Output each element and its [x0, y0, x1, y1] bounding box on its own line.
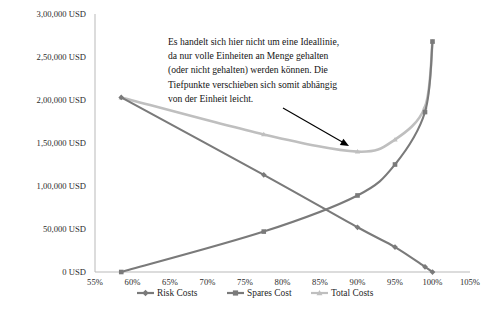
series-risk-costs — [118, 95, 435, 275]
series-line — [121, 97, 432, 272]
y-axis-tick-labels: 0 USD50,000 USD1,00,000 USD1,50,000 USD2… — [37, 9, 86, 277]
data-point-marker — [423, 110, 428, 115]
annotation-text-line: von der Einheit leicht. — [168, 93, 253, 104]
legend-marker — [233, 290, 238, 295]
x-tick-label: 95% — [387, 277, 403, 287]
legend-label: Risk Costs — [157, 288, 198, 298]
data-point-marker — [355, 193, 360, 198]
y-tick-label: 50,000 USD — [43, 224, 86, 234]
x-tick-label: 65% — [162, 277, 178, 287]
annotation-text-line: (oder nicht gehalten) werden können. Die — [168, 64, 328, 76]
line-chart-plot: 0 USD50,000 USD1,00,000 USD1,50,000 USD2… — [0, 0, 495, 311]
annotation-text-line: Tiefpunkte verschieben sich somit abhäng… — [168, 79, 337, 90]
x-tick-label: 70% — [200, 277, 216, 287]
x-tick-label: 100% — [422, 277, 442, 287]
y-tick-label: 1,50,000 USD — [37, 138, 86, 148]
x-axis-tick-labels: 55%60%65%70%75%80%85%90%95%100%105% — [87, 277, 480, 287]
data-point-marker — [393, 162, 398, 167]
annotation-arrow-head — [340, 139, 349, 146]
legend-marker — [142, 290, 149, 297]
x-tick-label: 105% — [460, 277, 480, 287]
annotation-layer: Es handelt sich hier nicht um eine Ideal… — [168, 36, 349, 146]
annotation-text-line: Es handelt sich hier nicht um eine Ideal… — [168, 36, 339, 47]
x-tick-label: 90% — [350, 277, 366, 287]
annotation-ideallinie-note: Es handelt sich hier nicht um eine Ideal… — [168, 36, 349, 146]
y-tick-label: 2,50,000 USD — [37, 52, 86, 62]
y-tick-label: 0 USD — [62, 267, 86, 277]
x-tick-label: 75% — [237, 277, 253, 287]
data-point-marker — [261, 229, 266, 234]
y-tick-label: 3,00,000 USD — [37, 9, 86, 19]
legend-label: Total Costs — [331, 288, 374, 298]
y-tick-label: 1,00,000 USD — [37, 181, 86, 191]
annotation-arrow-shaft — [283, 108, 344, 143]
legend-item-risk-costs[interactable]: Risk Costs — [137, 288, 198, 298]
data-point-marker — [119, 270, 124, 275]
legend-item-total-costs[interactable]: Total Costs — [311, 288, 374, 298]
x-tick-label: 60% — [125, 277, 141, 287]
annotation-text-line: da nur volle Einheiten an Menge gehalten — [168, 50, 329, 61]
data-point-marker — [430, 39, 435, 44]
chart-container: 0 USD50,000 USD1,00,000 USD1,50,000 USD2… — [0, 0, 495, 311]
x-tick-label: 55% — [87, 277, 103, 287]
legend-label: Spares Cost — [247, 288, 292, 298]
legend: Risk CostsSpares CostTotal Costs — [137, 288, 374, 298]
series-line — [121, 42, 432, 272]
x-tick-label: 80% — [275, 277, 291, 287]
y-tick-label: 2,00,000 USD — [37, 95, 86, 105]
x-tick-label: 85% — [312, 277, 328, 287]
legend-item-spares-cost[interactable]: Spares Cost — [227, 288, 292, 298]
